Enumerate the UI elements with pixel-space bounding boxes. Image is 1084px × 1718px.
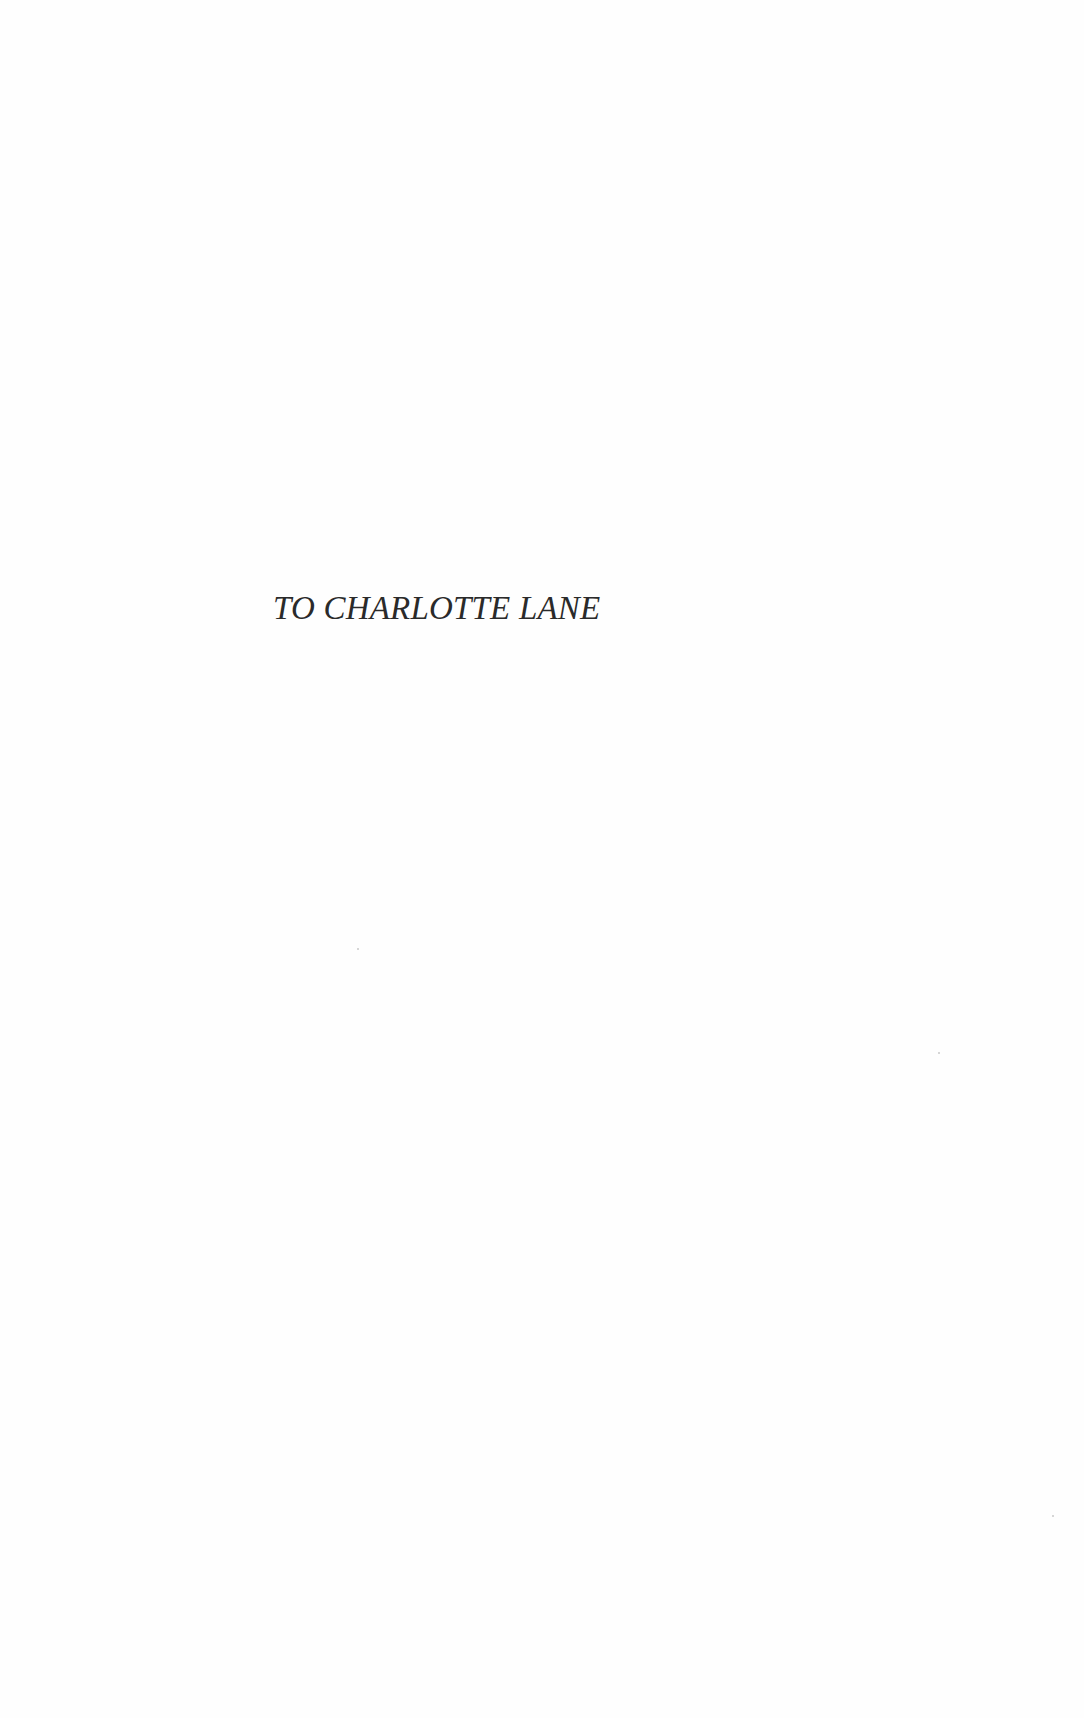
scan-speck — [1052, 1515, 1054, 1517]
scan-speck — [938, 1052, 940, 1054]
dedication-text: TO CHARLOTTE LANE — [273, 590, 600, 626]
scan-speck — [357, 948, 359, 950]
book-page: TO CHARLOTTE LANE — [0, 0, 1084, 1718]
